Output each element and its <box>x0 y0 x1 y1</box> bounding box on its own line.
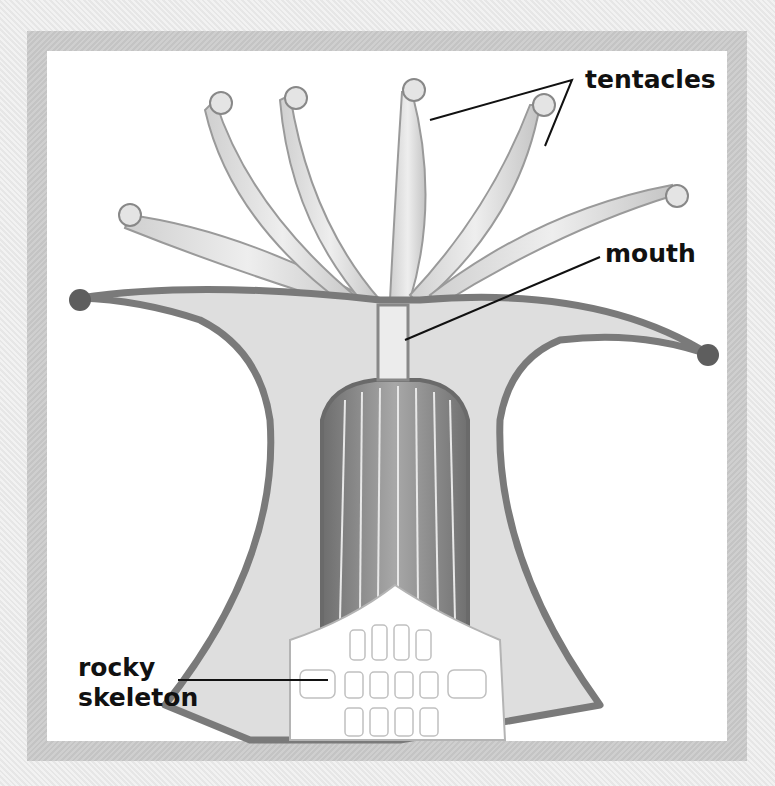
pharynx <box>378 305 408 380</box>
label-mouth: mouth <box>605 240 696 268</box>
label-rocky: rocky <box>78 654 155 682</box>
label-skeleton: skeleton <box>78 684 198 712</box>
label-tentacles: tentacles <box>585 66 716 94</box>
tentacles-group <box>125 92 675 310</box>
